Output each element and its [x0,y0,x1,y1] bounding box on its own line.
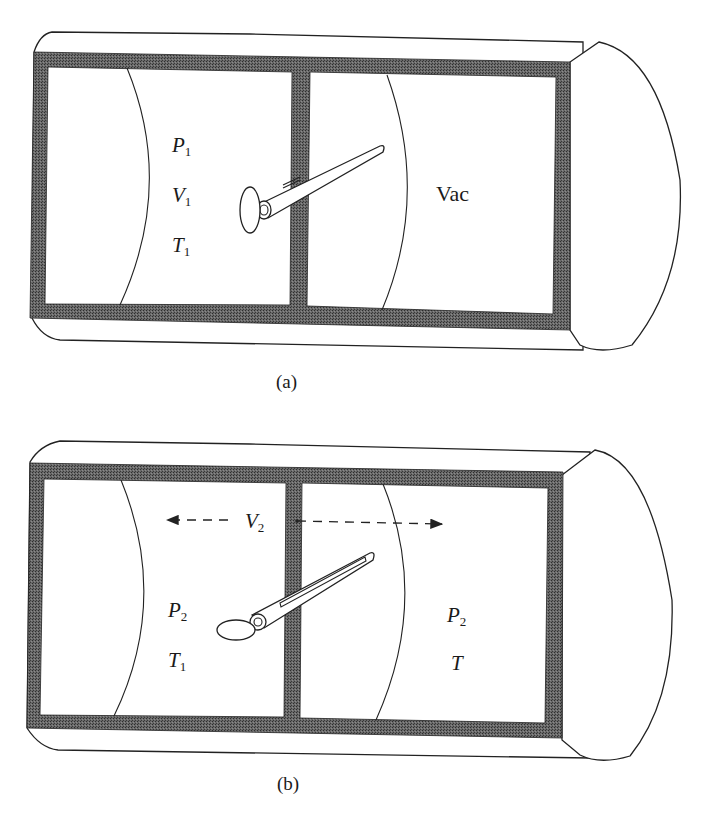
panel-b: V2 P2 T1 P2 T (b) [27,441,672,795]
arrow-origin-dot [295,519,299,523]
diagram-canvas: P1 V1 T1 Vac (a) V2 [0,0,704,822]
cylinder-endcap-a [570,42,680,350]
caption-b: (b) [277,773,299,795]
caption-a: (a) [276,371,297,393]
label-t-right: T [451,651,464,675]
panel-a: P1 V1 T1 Vac (a) [30,32,680,393]
label-vacuum: Vac [436,181,469,206]
cylinder-endcap-b [562,450,672,760]
